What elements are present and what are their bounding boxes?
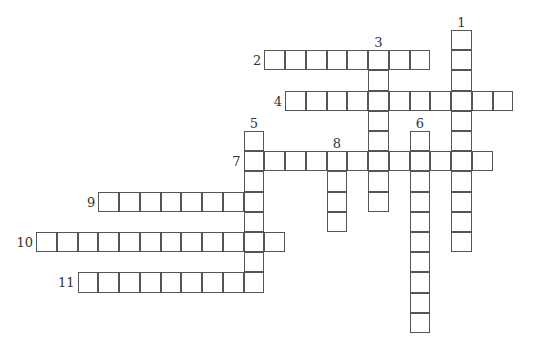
crossword-grid: 1234567891011 bbox=[0, 0, 535, 350]
crossword-cell[interactable] bbox=[327, 91, 348, 111]
crossword-cell[interactable] bbox=[327, 151, 348, 171]
crossword-cell[interactable] bbox=[161, 272, 182, 292]
crossword-cell[interactable] bbox=[410, 91, 431, 111]
crossword-cell[interactable] bbox=[78, 272, 99, 292]
crossword-cell[interactable] bbox=[493, 91, 514, 111]
crossword-cell[interactable] bbox=[368, 111, 389, 131]
crossword-cell[interactable] bbox=[285, 50, 306, 70]
clue-number-5: 5 bbox=[244, 117, 265, 130]
crossword-cell[interactable] bbox=[119, 192, 140, 212]
crossword-cell[interactable] bbox=[430, 151, 451, 171]
crossword-cell[interactable] bbox=[430, 91, 451, 111]
crossword-cell[interactable] bbox=[368, 91, 389, 111]
crossword-cell[interactable] bbox=[451, 192, 472, 212]
crossword-cell[interactable] bbox=[451, 91, 472, 111]
crossword-cell[interactable] bbox=[410, 131, 431, 151]
crossword-cell[interactable] bbox=[98, 232, 119, 252]
crossword-cell[interactable] bbox=[410, 50, 431, 70]
crossword-cell[interactable] bbox=[244, 151, 265, 171]
crossword-cell[interactable] bbox=[244, 131, 265, 151]
crossword-cell[interactable] bbox=[472, 151, 493, 171]
crossword-cell[interactable] bbox=[451, 232, 472, 252]
crossword-cell[interactable] bbox=[306, 91, 327, 111]
crossword-cell[interactable] bbox=[451, 70, 472, 90]
crossword-cell[interactable] bbox=[451, 212, 472, 232]
crossword-cell[interactable] bbox=[347, 91, 368, 111]
crossword-cell[interactable] bbox=[368, 70, 389, 90]
crossword-cell[interactable] bbox=[368, 131, 389, 151]
crossword-cell[interactable] bbox=[451, 50, 472, 70]
crossword-cell[interactable] bbox=[368, 50, 389, 70]
crossword-cell[interactable] bbox=[119, 272, 140, 292]
crossword-cell[interactable] bbox=[78, 232, 99, 252]
crossword-cell[interactable] bbox=[285, 151, 306, 171]
crossword-cell[interactable] bbox=[181, 192, 202, 212]
crossword-cell[interactable] bbox=[472, 91, 493, 111]
crossword-cell[interactable] bbox=[140, 272, 161, 292]
crossword-cell[interactable] bbox=[410, 212, 431, 232]
crossword-cell[interactable] bbox=[410, 192, 431, 212]
crossword-cell[interactable] bbox=[327, 192, 348, 212]
crossword-cell[interactable] bbox=[244, 212, 265, 232]
crossword-cell[interactable] bbox=[119, 232, 140, 252]
crossword-cell[interactable] bbox=[410, 151, 431, 171]
crossword-cell[interactable] bbox=[410, 272, 431, 292]
crossword-cell[interactable] bbox=[223, 272, 244, 292]
crossword-cell[interactable] bbox=[244, 171, 265, 191]
crossword-cell[interactable] bbox=[410, 313, 431, 333]
crossword-cell[interactable] bbox=[244, 232, 265, 252]
crossword-cell[interactable] bbox=[202, 272, 223, 292]
crossword-cell[interactable] bbox=[368, 171, 389, 191]
crossword-cell[interactable] bbox=[161, 192, 182, 212]
crossword-cell[interactable] bbox=[36, 232, 57, 252]
clue-number-3: 3 bbox=[368, 36, 389, 49]
clue-number-7: 7 bbox=[217, 155, 241, 168]
clue-number-9: 9 bbox=[71, 196, 95, 209]
crossword-cell[interactable] bbox=[410, 293, 431, 313]
crossword-cell[interactable] bbox=[327, 171, 348, 191]
crossword-cell[interactable] bbox=[181, 232, 202, 252]
crossword-cell[interactable] bbox=[306, 50, 327, 70]
crossword-cell[interactable] bbox=[161, 232, 182, 252]
crossword-cell[interactable] bbox=[451, 30, 472, 50]
crossword-cell[interactable] bbox=[451, 111, 472, 131]
crossword-cell[interactable] bbox=[98, 272, 119, 292]
crossword-cell[interactable] bbox=[202, 192, 223, 212]
crossword-cell[interactable] bbox=[389, 50, 410, 70]
crossword-cell[interactable] bbox=[285, 91, 306, 111]
crossword-cell[interactable] bbox=[389, 151, 410, 171]
crossword-cell[interactable] bbox=[223, 232, 244, 252]
crossword-cell[interactable] bbox=[327, 212, 348, 232]
crossword-cell[interactable] bbox=[368, 192, 389, 212]
clue-number-11: 11 bbox=[51, 276, 75, 289]
clue-number-10: 10 bbox=[9, 236, 33, 249]
crossword-cell[interactable] bbox=[306, 151, 327, 171]
crossword-cell[interactable] bbox=[410, 171, 431, 191]
crossword-cell[interactable] bbox=[202, 232, 223, 252]
crossword-cell[interactable] bbox=[98, 192, 119, 212]
crossword-cell[interactable] bbox=[140, 192, 161, 212]
crossword-cell[interactable] bbox=[140, 232, 161, 252]
crossword-cell[interactable] bbox=[410, 252, 431, 272]
crossword-cell[interactable] bbox=[264, 232, 285, 252]
crossword-cell[interactable] bbox=[244, 272, 265, 292]
clue-number-8: 8 bbox=[327, 137, 348, 150]
crossword-cell[interactable] bbox=[451, 171, 472, 191]
clue-number-2: 2 bbox=[237, 54, 261, 67]
crossword-cell[interactable] bbox=[327, 50, 348, 70]
crossword-cell[interactable] bbox=[347, 151, 368, 171]
crossword-cell[interactable] bbox=[264, 151, 285, 171]
crossword-cell[interactable] bbox=[57, 232, 78, 252]
crossword-cell[interactable] bbox=[451, 151, 472, 171]
crossword-cell[interactable] bbox=[451, 131, 472, 151]
crossword-cell[interactable] bbox=[410, 232, 431, 252]
crossword-cell[interactable] bbox=[244, 192, 265, 212]
crossword-cell[interactable] bbox=[264, 50, 285, 70]
crossword-cell[interactable] bbox=[347, 50, 368, 70]
clue-number-4: 4 bbox=[258, 95, 282, 108]
crossword-cell[interactable] bbox=[181, 272, 202, 292]
crossword-cell[interactable] bbox=[244, 252, 265, 272]
crossword-cell[interactable] bbox=[223, 192, 244, 212]
crossword-cell[interactable] bbox=[368, 151, 389, 171]
crossword-cell[interactable] bbox=[389, 91, 410, 111]
